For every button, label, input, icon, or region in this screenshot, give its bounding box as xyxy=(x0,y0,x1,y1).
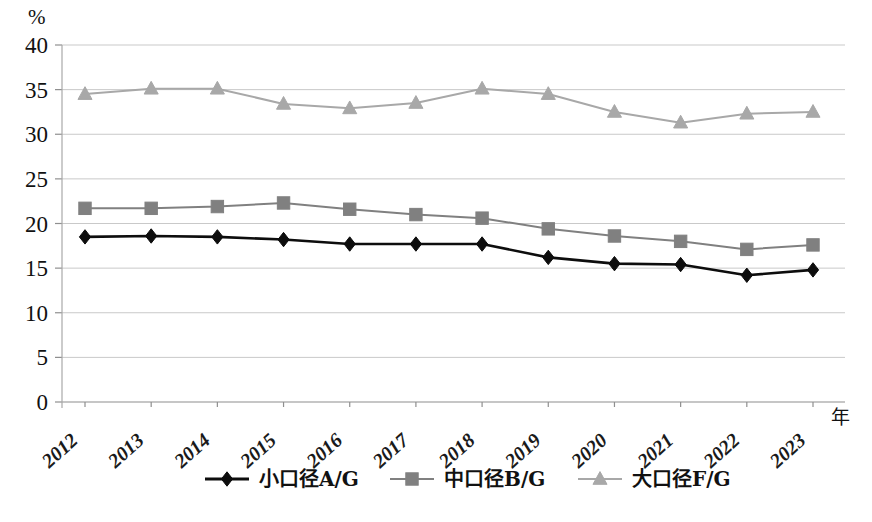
series-line xyxy=(85,236,813,275)
data-point-marker-diamond xyxy=(410,237,421,251)
data-point-marker-diamond xyxy=(675,257,686,271)
data-point-marker-square xyxy=(741,243,753,255)
chart-axes xyxy=(55,45,845,408)
x-axis-tick-label: 2023 xyxy=(764,429,809,473)
data-series xyxy=(78,81,820,282)
y-axis-tick-label: 0 xyxy=(37,390,49,415)
data-point-marker-square xyxy=(344,203,356,215)
legend-label: 小口径A/G xyxy=(259,467,359,491)
y-axis-unit-label: % xyxy=(28,5,46,29)
data-point-marker-diamond xyxy=(543,250,554,264)
legend-entry: 大口径F/G xyxy=(578,467,731,491)
data-point-marker-square xyxy=(211,200,223,212)
data-point-marker-diamond xyxy=(609,256,620,270)
y-axis-tick-label: 35 xyxy=(25,78,48,103)
data-point-marker-diamond xyxy=(741,268,752,282)
y-axis-tick-label: 30 xyxy=(25,122,48,147)
data-point-marker-square xyxy=(406,473,418,485)
data-point-marker-diamond xyxy=(146,229,157,243)
y-axis-unit-label: % xyxy=(28,5,46,29)
data-point-marker-triangle xyxy=(475,81,489,94)
x-axis-name-label: 年 xyxy=(831,406,850,428)
figure-caption xyxy=(0,509,872,522)
data-point-marker-triangle xyxy=(210,81,224,94)
y-axis-tick-label: 40 xyxy=(25,33,48,58)
x-axis-tick-label: 2012 xyxy=(36,429,81,473)
data-point-marker-triangle xyxy=(144,81,158,94)
series-line xyxy=(85,203,813,249)
data-point-marker-diamond xyxy=(476,237,487,251)
data-point-marker-square xyxy=(145,202,157,214)
data-point-marker-square xyxy=(277,197,289,209)
data-point-marker-square xyxy=(410,208,422,220)
series-square xyxy=(79,197,819,256)
y-axis-tick-labels: 4035302520151050 xyxy=(25,33,48,415)
data-point-marker-square xyxy=(674,235,686,247)
gridlines xyxy=(62,45,845,402)
data-point-marker-diamond xyxy=(278,232,289,246)
data-point-marker-square xyxy=(608,230,620,242)
legend-entry: 小口径A/G xyxy=(205,467,359,491)
data-point-marker-triangle xyxy=(806,105,820,118)
chart-legend: 小口径A/G中口径B/G大口径F/G xyxy=(205,467,731,491)
line-chart: 4035302520151050 % 201220132014201520162… xyxy=(0,0,872,522)
y-axis-tick-label: 15 xyxy=(25,256,48,281)
legend-entry: 中口径B/G xyxy=(390,467,545,491)
series-line xyxy=(85,89,813,123)
data-point-marker-square xyxy=(542,223,554,235)
y-axis-tick-label: 20 xyxy=(25,212,48,237)
y-axis-tick-label: 5 xyxy=(37,345,49,370)
data-point-marker-diamond xyxy=(212,230,223,244)
x-axis-tick-label: 2014 xyxy=(169,429,214,473)
data-point-marker-diamond xyxy=(344,237,355,251)
data-point-marker-square xyxy=(807,239,819,251)
y-axis-tick-label: 25 xyxy=(25,167,48,192)
series-triangle xyxy=(78,81,820,128)
x-axis-tick-label: 2017 xyxy=(367,428,413,472)
data-point-marker-square xyxy=(79,202,91,214)
data-point-marker-diamond xyxy=(807,263,818,277)
chart-container: 4035302520151050 % 201220132014201520162… xyxy=(0,0,872,522)
legend-label: 大口径F/G xyxy=(632,467,731,491)
series-diamond xyxy=(79,229,818,283)
x-axis-name-label: 年 xyxy=(831,406,850,428)
y-axis-tick-label: 10 xyxy=(25,301,48,326)
legend-label: 中口径B/G xyxy=(444,467,545,491)
data-point-marker-diamond xyxy=(79,230,90,244)
x-axis-tick-label: 2013 xyxy=(103,429,148,473)
data-point-marker-diamond xyxy=(221,472,232,486)
data-point-marker-square xyxy=(476,212,488,224)
x-axis-tick-label: 2020 xyxy=(566,429,611,473)
